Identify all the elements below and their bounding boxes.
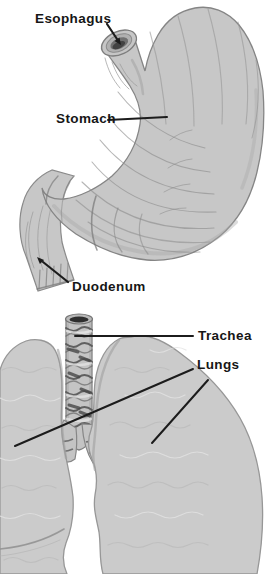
duodenum-label: Duodenum xyxy=(72,280,146,294)
stomach-illustration xyxy=(20,7,264,291)
lungs-label: Lungs xyxy=(197,358,240,372)
stomach-shape xyxy=(42,7,264,260)
trachea-label: Trachea xyxy=(198,329,252,343)
left-lung xyxy=(0,340,73,574)
lungs-illustration xyxy=(0,314,263,574)
figure-canvas: Esophagus Stomach Duodenum Trachea Lungs xyxy=(0,0,266,574)
stomach-label: Stomach xyxy=(56,112,116,126)
esophagus-label: Esophagus xyxy=(35,12,111,26)
